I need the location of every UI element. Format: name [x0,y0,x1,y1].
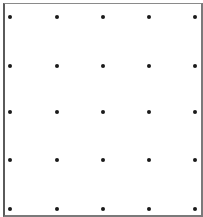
grid-dot-r3-c3 [101,110,105,114]
grid-dot-r4-c3 [101,158,105,162]
grid-dot-r5-c1 [8,207,12,211]
grid-dot-r2-c2 [55,64,59,68]
grid-dot-r5-c2 [55,207,59,211]
grid-dot-r1-c2 [55,15,59,19]
grid-dot-r3-c5 [193,110,197,114]
grid-dot-r3-c1 [8,110,12,114]
grid-dot-r5-c3 [101,207,105,211]
grid-dot-r1-c5 [193,15,197,19]
grid-dot-r5-c4 [147,207,151,211]
grid-dot-r4-c2 [55,158,59,162]
grid-dot-r2-c3 [101,64,105,68]
grid-dot-r5-c5 [193,207,197,211]
grid-dot-r3-c2 [55,110,59,114]
grid-dot-r2-c5 [193,64,197,68]
grid-dot-r1-c4 [147,15,151,19]
grid-dot-r4-c5 [193,158,197,162]
grid-dot-r2-c1 [8,64,12,68]
grid-dot-r2-c4 [147,64,151,68]
grid-dot-r1-c1 [8,15,12,19]
grid-dot-r4-c4 [147,158,151,162]
grid-dot-r4-c1 [8,158,12,162]
grid-dot-r1-c3 [101,15,105,19]
grid-dot-r3-c4 [147,110,151,114]
